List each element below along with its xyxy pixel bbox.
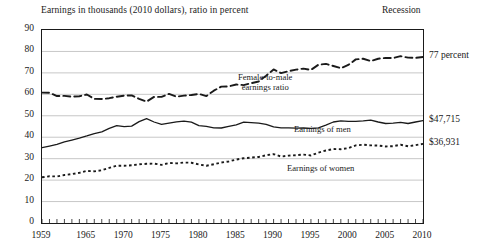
chart-axis-title: Earnings in thousands (2010 dollars), ra… (41, 5, 249, 15)
plot-area (41, 29, 424, 224)
series-line-women (42, 144, 423, 177)
series-label-ratio-line2: earnings ratio (242, 82, 289, 92)
y-tick-10: 10 (8, 195, 34, 205)
right-label-ratio: 77 percent (429, 50, 469, 60)
series-line-men (42, 119, 423, 148)
y-tick-70: 70 (8, 66, 34, 76)
y-tick-60: 60 (8, 87, 34, 97)
series-line-ratio (42, 56, 423, 101)
chart-figure: Earnings in thousands (2010 dollars), ra… (0, 0, 489, 251)
y-tick-20: 20 (8, 173, 34, 183)
series-canvas (42, 30, 423, 223)
x-tick-2010: 2010 (400, 230, 444, 240)
series-label-ratio: Female-to-male earnings ratio (238, 72, 292, 92)
right-label-men: $47,715 (429, 114, 460, 124)
y-tick-0: 0 (8, 216, 34, 226)
y-tick-40: 40 (8, 130, 34, 140)
recession-label: Recession (382, 5, 421, 15)
series-label-men: Earnings of men (294, 124, 351, 134)
right-label-women: $36,931 (429, 137, 460, 147)
series-label-women: Earnings of women (287, 163, 354, 173)
y-tick-50: 50 (8, 109, 34, 119)
x-tick-1959: 1959 (19, 230, 63, 240)
y-tick-80: 80 (8, 44, 34, 54)
y-tick-30: 30 (8, 152, 34, 162)
series-label-ratio-line1: Female-to-male (238, 72, 292, 82)
y-tick-90: 90 (8, 23, 34, 33)
